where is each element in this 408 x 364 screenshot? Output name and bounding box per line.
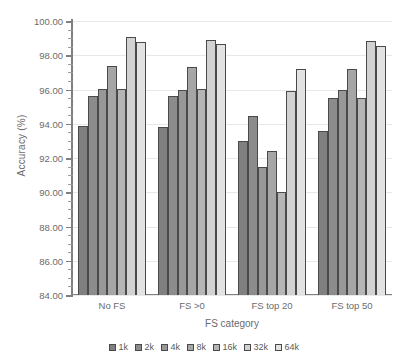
y-tick-label: 100.00 <box>34 16 63 27</box>
bar-group-bars <box>152 21 232 295</box>
bar-group-bars <box>72 21 152 295</box>
bar-32k <box>126 37 136 295</box>
bar-4k <box>98 89 108 295</box>
y-tick-label: 94.00 <box>39 118 63 129</box>
bar-16k <box>117 89 127 295</box>
bar-64k <box>136 42 146 295</box>
y-axis-label: Accuracy (%) <box>16 91 27 201</box>
bar-64k <box>376 46 386 295</box>
bar-2k <box>88 96 98 295</box>
chart-legend: 1k2k4k8k16k32k64k <box>0 342 408 352</box>
legend-swatch-icon <box>161 344 168 351</box>
bar-8k <box>267 151 277 295</box>
x-tick-label: FS >0 <box>152 300 232 316</box>
legend-label: 4k <box>170 342 180 352</box>
bar-16k <box>357 98 367 295</box>
bar-64k <box>216 44 226 295</box>
bar-32k <box>286 91 296 295</box>
legend-swatch-icon <box>275 344 282 351</box>
y-tick-label: 92.00 <box>39 153 63 164</box>
bar-4k <box>178 90 188 296</box>
legend-label: 8k <box>196 342 206 352</box>
legend-item-8k[interactable]: 8k <box>187 342 206 352</box>
legend-swatch-icon <box>244 344 251 351</box>
legend-item-64k[interactable]: 64k <box>275 342 299 352</box>
y-tick-label: 88.00 <box>39 221 63 232</box>
legend-label: 32k <box>254 342 269 352</box>
bar-group <box>152 21 232 295</box>
bar-1k <box>318 131 328 295</box>
bar-16k <box>277 192 287 295</box>
bar-64k <box>296 69 306 295</box>
x-axis-label: FS category <box>72 318 392 329</box>
legend-swatch-icon <box>187 344 194 351</box>
bar-4k <box>258 167 268 295</box>
legend-label: 2k <box>144 342 154 352</box>
legend-swatch-icon <box>135 344 142 351</box>
bar-2k <box>168 96 178 295</box>
bar-group <box>232 21 312 295</box>
legend-item-1k[interactable]: 1k <box>109 342 128 352</box>
bar-chart-figure: Accuracy (%) 84.0086.0088.0090.0092.0094… <box>0 0 408 364</box>
bar-1k <box>158 127 168 295</box>
legend-item-32k[interactable]: 32k <box>244 342 268 352</box>
legend-item-2k[interactable]: 2k <box>135 342 154 352</box>
legend-label: 16k <box>223 342 238 352</box>
bar-8k <box>347 69 357 295</box>
legend-swatch-icon <box>213 344 220 351</box>
legend-item-16k[interactable]: 16k <box>213 342 237 352</box>
bar-4k <box>338 90 348 295</box>
bar-2k <box>248 116 258 295</box>
bar-1k <box>78 126 88 295</box>
bar-group <box>312 21 392 295</box>
bar-group-bars <box>232 21 312 295</box>
y-tick-label: 90.00 <box>39 187 63 198</box>
x-tick-label: FS top 50 <box>312 300 392 316</box>
bar-groups <box>72 21 392 295</box>
bar-16k <box>197 89 207 295</box>
legend-swatch-icon <box>109 344 116 351</box>
bar-32k <box>206 40 216 295</box>
y-tick-label: 86.00 <box>39 255 63 266</box>
plot-area: 84.0086.0088.0090.0092.0094.0096.0098.00… <box>72 21 392 295</box>
y-tick-label: 84.00 <box>39 290 63 301</box>
bar-8k <box>107 66 117 295</box>
y-tick-label: 96.00 <box>39 84 63 95</box>
bar-1k <box>238 141 248 295</box>
bar-group <box>72 21 152 295</box>
legend-label: 64k <box>285 342 300 352</box>
x-tick-label: No FS <box>72 300 152 316</box>
gridline <box>72 295 392 296</box>
bar-2k <box>328 98 338 295</box>
bar-32k <box>366 41 376 295</box>
legend-label: 1k <box>118 342 128 352</box>
bar-8k <box>187 67 197 295</box>
x-axis-tick-labels: No FSFS >0FS top 20FS top 50 <box>72 300 392 316</box>
x-tick-label: FS top 20 <box>232 300 312 316</box>
y-tick-label: 98.00 <box>39 50 63 61</box>
bar-group-bars <box>312 21 392 295</box>
y-tick-major <box>66 295 73 297</box>
legend-item-4k[interactable]: 4k <box>161 342 180 352</box>
